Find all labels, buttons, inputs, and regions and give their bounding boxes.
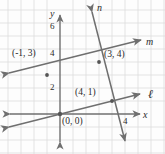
graph-canvas bbox=[0, 0, 165, 154]
point-4-1 bbox=[110, 99, 114, 103]
point-neg1-3 bbox=[45, 73, 49, 77]
x-tick-4: 4 bbox=[123, 117, 128, 126]
point-3-4 bbox=[97, 60, 101, 64]
y-tick-2: 2 bbox=[50, 83, 55, 92]
y-tick-6: 6 bbox=[50, 22, 55, 31]
x-axis-label: x bbox=[143, 110, 147, 120]
point-label-0-0: (0, 0) bbox=[62, 117, 83, 127]
line-n-label: n bbox=[97, 3, 102, 13]
point-label-4-1: (4, 1) bbox=[75, 88, 96, 98]
point-label-neg1-3: (-1, 3) bbox=[12, 49, 36, 59]
line-l-label: ℓ bbox=[148, 88, 153, 100]
line-m-label: m bbox=[146, 37, 153, 47]
point-label-3-4: (3, 4) bbox=[104, 50, 125, 60]
y-tick-4: 4 bbox=[50, 49, 55, 58]
y-axis-label: y bbox=[50, 9, 54, 19]
coordinate-graph-figure: y x n m ℓ 6 4 2 4 (-1, 3) (3, 4) (4, 1) … bbox=[0, 0, 165, 154]
grid-lines bbox=[0, 0, 165, 154]
line-n bbox=[92, 12, 125, 141]
